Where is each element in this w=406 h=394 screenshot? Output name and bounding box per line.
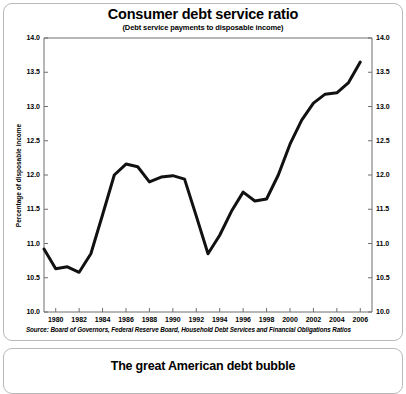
x-axis-ticks (56, 308, 361, 312)
y-tick-label-left: 14.0 (10, 34, 40, 41)
bubble-card-title: The great American debt bubble (4, 359, 402, 373)
debt-service-ratio-line (44, 62, 360, 272)
y-tick-label-right: 13.0 (376, 103, 406, 110)
y-tick-label-right: 10.0 (376, 308, 406, 315)
y-tick-label-left: 13.5 (10, 68, 40, 75)
y-tick-label-right: 13.5 (376, 68, 406, 75)
y-tick-label-left: 11.5 (10, 205, 40, 212)
consumer-debt-service-ratio-card: Consumer debt service ratio (Debt servic… (3, 3, 403, 341)
y-tick-label-left: 13.0 (10, 103, 40, 110)
great-american-debt-bubble-card: The great American debt bubble (3, 348, 403, 394)
y-tick-label-right: 14.0 (376, 34, 406, 41)
y-tick-label-left: 10.5 (10, 274, 40, 281)
y-tick-label-right: 10.5 (376, 274, 406, 281)
y-tick-label-left: 11.0 (10, 240, 40, 247)
y-tick-label-right: 12.0 (376, 171, 406, 178)
y-axis-ticks (44, 38, 372, 312)
y-tick-label-right: 11.5 (376, 205, 406, 212)
x-tick-label: 2006 (345, 316, 375, 323)
line-chart-plot (4, 4, 404, 342)
chart-source: Source: Board of Governors, Federal Rese… (26, 326, 351, 333)
y-tick-label-right: 11.0 (376, 240, 406, 247)
axis-lines (44, 38, 372, 312)
y-tick-label-left: 10.0 (10, 308, 40, 315)
y-tick-label-left: 12.5 (10, 137, 40, 144)
y-tick-label-right: 12.5 (376, 137, 406, 144)
y-tick-label-left: 12.0 (10, 171, 40, 178)
